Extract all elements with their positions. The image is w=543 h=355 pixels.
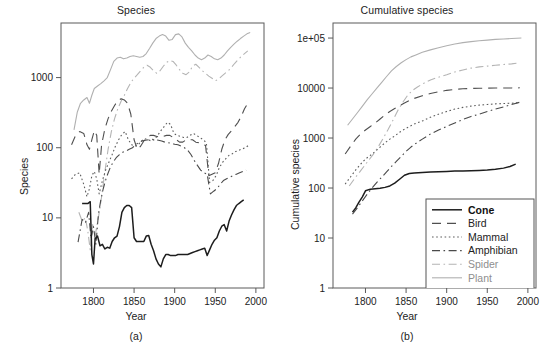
series-line-amphibian — [352, 102, 519, 214]
y-tick-label: 10 — [42, 212, 54, 223]
y-tick-label: 10000 — [297, 83, 325, 94]
figure-container: Species Species Year (a) 110100100018001… — [0, 0, 543, 355]
series-line-bird — [72, 99, 248, 176]
panel-b-plot: 1101001000100001e+0518001850190019502000… — [271, 0, 543, 355]
series-line-mammal — [72, 122, 249, 196]
legend-label-spider[interactable]: Spider — [468, 258, 499, 270]
x-tick-label: 2000 — [517, 296, 540, 307]
series-line-cone — [82, 200, 244, 267]
x-tick-label: 1800 — [354, 296, 377, 307]
x-tick-label: 1900 — [436, 296, 459, 307]
y-tick-label: 1000 — [303, 133, 326, 144]
panel-cumulative-species: Cumulative species Year (b) 110100100010… — [271, 0, 543, 355]
legend-label-bird[interactable]: Bird — [468, 217, 487, 229]
legend-label-amphibian[interactable]: Amphibian — [468, 244, 518, 256]
series-line-spider — [349, 63, 520, 186]
y-tick-label: 100 — [308, 183, 325, 194]
series-line-plant — [348, 38, 522, 125]
panel-b-y-axis-title: Cumulative species — [289, 139, 301, 230]
y-tick-label: 1 — [47, 283, 53, 294]
legend[interactable]: ConeBirdMammalAmphibianSpiderPlant — [426, 199, 534, 289]
series-line-bird — [345, 88, 520, 154]
x-tick-label: 1850 — [395, 296, 418, 307]
y-tick-label: 1e+05 — [297, 33, 326, 44]
y-tick-label: 100 — [36, 142, 53, 153]
x-tick-label: 1800 — [82, 296, 105, 307]
y-tick-label: 1000 — [31, 72, 54, 83]
y-tick-label: 10 — [314, 233, 326, 244]
legend-label-cone[interactable]: Cone — [468, 204, 494, 216]
panel-a-plot: 110100100018001850190019502000 — [0, 0, 272, 355]
x-tick-label: 1900 — [164, 296, 187, 307]
legend-label-plant[interactable]: Plant — [468, 272, 492, 284]
x-tick-label: 1950 — [204, 296, 227, 307]
legend-label-mammal[interactable]: Mammal — [468, 231, 508, 243]
panel-species: Species Species Year (a) 110100100018001… — [0, 0, 272, 355]
x-tick-label: 1850 — [123, 296, 146, 307]
series-line-plant — [74, 32, 250, 129]
y-tick-label: 1 — [319, 283, 325, 294]
x-tick-label: 2000 — [245, 296, 268, 307]
x-tick-label: 1950 — [476, 296, 499, 307]
